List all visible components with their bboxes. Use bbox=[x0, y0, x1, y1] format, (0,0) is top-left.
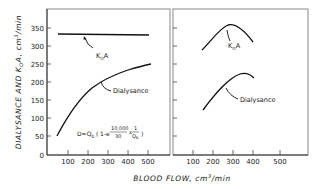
arrow-head-icon bbox=[84, 36, 87, 40]
x-tick-label: 400 bbox=[246, 158, 259, 166]
left-panel: 350 300 250 200 150 100 50 0 100 200 300… bbox=[31, 9, 170, 166]
y-tick-label: 0 bbox=[40, 152, 44, 160]
left-x-ticks: 100 200 300 400 500 bbox=[61, 150, 154, 166]
y-tick-label: 350 bbox=[31, 25, 44, 33]
right-koa-label: KOA bbox=[228, 42, 241, 51]
svg-text:): ) bbox=[141, 130, 143, 137]
x-tick-label: 300 bbox=[226, 158, 239, 166]
x-tick-label: 200 bbox=[206, 158, 219, 166]
x-tick-label: 300 bbox=[101, 158, 114, 166]
dialysance-equation: D=Qb ( 1-e 10,000 30 x 1 Qb ) bbox=[77, 125, 143, 140]
svg-text:1-e: 1-e bbox=[100, 130, 110, 137]
right-panel: 100 200 300 400 500 KOA Dialysance bbox=[173, 9, 308, 166]
right-koa-pointer bbox=[227, 30, 230, 41]
y-axis-title: DIALYSANCE AND KOA, cm3/min bbox=[13, 15, 24, 149]
left-koa-label: KOA bbox=[96, 52, 109, 61]
y-tick-label: 100 bbox=[31, 115, 44, 123]
left-dialysance-pointer bbox=[101, 82, 111, 91]
x-tick-label: 400 bbox=[121, 158, 134, 166]
x-tick-label: 500 bbox=[141, 158, 154, 166]
svg-text:Qb: Qb bbox=[132, 133, 139, 140]
svg-text:1: 1 bbox=[134, 125, 137, 131]
left-y-ticks: 350 300 250 200 150 100 50 0 bbox=[31, 25, 51, 160]
right-plot-frame bbox=[173, 9, 308, 155]
right-x-ticks: 100 200 300 400 500 bbox=[186, 150, 286, 166]
y-tick-label: 250 bbox=[31, 61, 44, 69]
svg-text:30: 30 bbox=[115, 133, 121, 139]
chart-canvas: 350 300 250 200 150 100 50 0 100 200 300… bbox=[0, 0, 319, 189]
y-tick-label: 200 bbox=[31, 79, 44, 87]
x-tick-label: 100 bbox=[61, 158, 74, 166]
svg-text:D=Qb: D=Qb bbox=[77, 130, 94, 139]
y-tick-label: 50 bbox=[35, 133, 44, 141]
x-tick-label: 100 bbox=[186, 158, 199, 166]
svg-text:10,000: 10,000 bbox=[111, 125, 129, 131]
x-tick-label: 200 bbox=[81, 158, 94, 166]
left-koa-line bbox=[58, 34, 149, 35]
right-y-ticks bbox=[173, 28, 177, 136]
right-dialysance-label: Dialysance bbox=[240, 96, 276, 104]
x-tick-label: 500 bbox=[273, 158, 286, 166]
y-tick-label: 300 bbox=[31, 43, 44, 51]
y-tick-label: 150 bbox=[31, 97, 44, 105]
right-dialysance-pointer bbox=[226, 88, 238, 99]
svg-text:(: ( bbox=[96, 130, 98, 137]
left-dialysance-label: Dialysance bbox=[113, 87, 149, 95]
x-axis-title: BLOOD FLOW, cm3/min bbox=[133, 173, 231, 183]
